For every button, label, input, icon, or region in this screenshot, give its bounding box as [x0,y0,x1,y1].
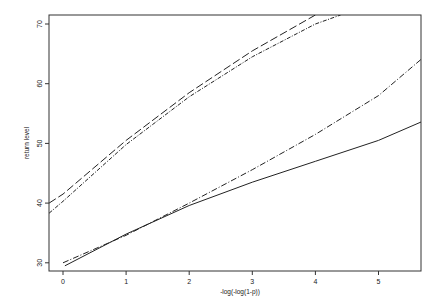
x-tick-label: 1 [124,278,128,285]
plot-frame [49,15,421,271]
y-tick-label: 60 [36,80,43,88]
x-tick-label: 4 [313,278,317,285]
y-tick-label: 30 [36,259,43,267]
y-tick-label: 70 [36,20,43,28]
y-tick-label: 40 [36,199,43,207]
series-line-dotted-dash [49,15,341,213]
chart: 012345 3040506070 -log(-log(1-p)) return… [0,0,443,305]
x-tick-label: 2 [187,278,191,285]
x-tick-label: 0 [61,278,65,285]
x-tick-label: 5 [377,278,381,285]
series-line-solid [65,121,423,265]
y-tick-label: 50 [36,139,43,147]
series-line-dash-dot [63,58,423,263]
x-axis-label: -log(-log(1-p)) [220,288,260,296]
y-axis-label: return level [23,126,30,159]
y-axis-ticks: 3040506070 [36,20,49,267]
x-axis-ticks: 012345 [61,271,381,285]
series-lines [49,15,423,266]
x-tick-label: 3 [250,278,254,285]
